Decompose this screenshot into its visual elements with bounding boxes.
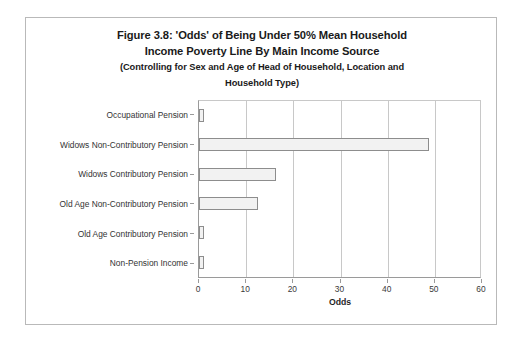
x-tick-mark [245,279,246,283]
y-tick-mark [190,114,194,115]
bar-series [199,101,480,277]
x-tick-label: 30 [335,284,344,294]
category-label: Old Age Contributory Pension [26,219,194,249]
x-tick-label: 20 [288,284,297,294]
x-tick-label: 60 [476,284,485,294]
figure-title-block: Figure 3.8: 'Odds' of Being Under 50% Me… [64,28,460,90]
figure-title-line-1: Figure 3.8: 'Odds' of Being Under 50% Me… [64,28,460,44]
x-tick-label: 50 [429,284,438,294]
x-axis-title: Odds [198,297,482,307]
bar-row [199,130,480,159]
category-label: Old Age Non-Contributory Pension [26,189,194,219]
figure-frame: Figure 3.8: 'Odds' of Being Under 50% Me… [25,17,497,325]
category-label: Widows Contributory Pension [26,159,194,189]
x-tick-mark [434,279,435,283]
y-tick-mark [190,174,194,175]
category-label: Widows Non-Contributory Pension [26,130,194,160]
bar [199,256,204,269]
x-tick-label: 0 [196,284,201,294]
bar-row [199,160,480,189]
bar-row [199,101,480,130]
x-tick-mark [387,279,388,283]
y-tick-mark [190,233,194,234]
x-tick-mark [198,279,199,283]
bar-row [199,189,480,218]
category-label-text: Occupational Pension [107,110,188,120]
y-tick-mark [190,263,194,264]
x-tick-mark [292,279,293,283]
y-tick-mark [190,203,194,204]
y-tick-mark [190,144,194,145]
figure-title-line-2: Income Poverty Line By Main Income Sourc… [64,44,460,60]
bar-row [199,248,480,277]
figure-subtitle-line-2: Household Type) [64,77,460,91]
category-label-text: Old Age Contributory Pension [78,229,188,239]
x-axis: 0102030405060 [198,279,482,295]
bar [199,109,204,122]
category-label: Occupational Pension [26,100,194,130]
category-label-text: Non-Pension Income [110,258,188,268]
figure-subtitle-line-1: (Controlling for Sex and Age of Head of … [64,61,460,75]
bar [199,168,276,181]
bar [199,197,258,210]
x-tick-label: 10 [240,284,249,294]
category-label-text: Widows Contributory Pension [78,169,188,179]
bar-row [199,218,480,247]
plot-area [198,100,481,278]
x-tick-mark [340,279,341,283]
category-label-text: Widows Non-Contributory Pension [60,140,188,150]
x-tick-mark [481,279,482,283]
x-tick-label: 40 [382,284,391,294]
category-label-text: Old Age Non-Contributory Pension [60,199,189,209]
bar [199,226,204,239]
bar [199,138,429,151]
category-label: Non-Pension Income [26,248,194,278]
category-axis-labels: Occupational Pension Widows Non-Contribu… [26,100,194,278]
